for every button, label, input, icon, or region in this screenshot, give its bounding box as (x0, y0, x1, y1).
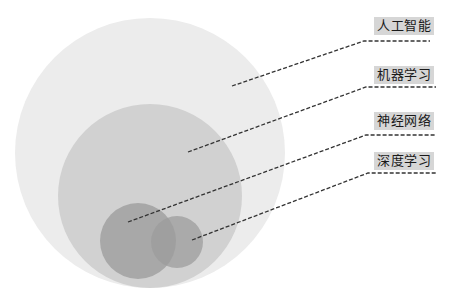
ai-label: 人工智能 (374, 17, 434, 35)
nn-label: 神经网络 (374, 112, 434, 130)
dl-label: 深度学习 (374, 152, 434, 170)
ml-label: 机器学习 (374, 66, 434, 84)
dl-circle (151, 216, 203, 268)
